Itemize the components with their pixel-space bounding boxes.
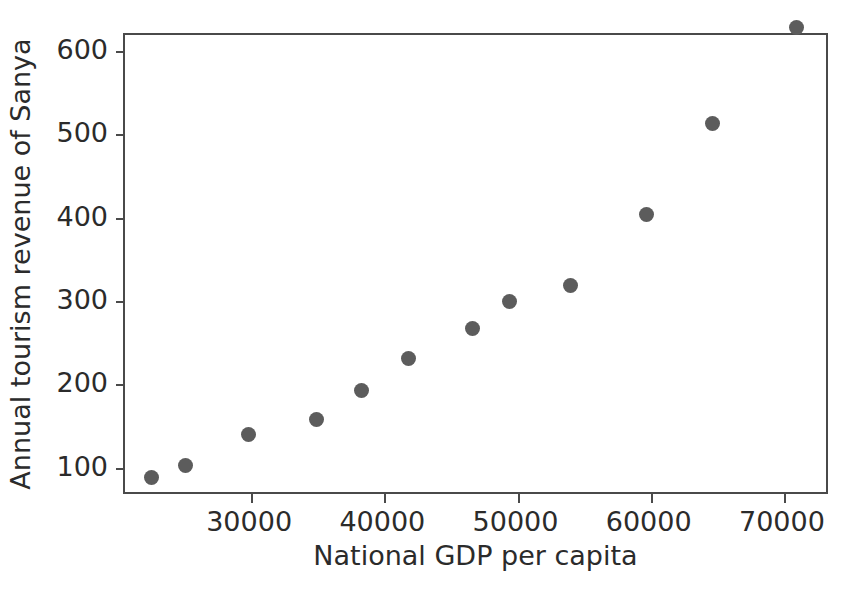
data-point (639, 207, 654, 222)
x-axis-tick-label: 70000 (739, 506, 825, 537)
y-axis-tick (116, 468, 125, 470)
data-point (354, 383, 369, 398)
data-point (563, 278, 578, 293)
x-axis-tick-label: 50000 (473, 506, 559, 537)
y-axis-tick (116, 218, 125, 220)
x-axis-tick-label: 60000 (606, 506, 692, 537)
data-point (178, 458, 193, 473)
x-axis-tick (784, 494, 786, 503)
x-axis-tick-label: 30000 (206, 506, 292, 537)
data-point (705, 116, 720, 131)
y-axis-tick-label: 600 (56, 33, 108, 64)
y-axis-tick-label: 100 (56, 450, 108, 481)
y-axis-tick (116, 51, 125, 53)
data-point (241, 427, 256, 442)
x-axis-tick (384, 494, 386, 503)
data-point (309, 412, 324, 427)
y-axis-tick (116, 384, 125, 386)
scatter-chart-figure: Annual tourism revenue of Sanya 10020030… (0, 0, 856, 593)
x-axis-tick-label: 40000 (339, 506, 425, 537)
data-point (502, 294, 517, 309)
y-axis-tick-label: 400 (56, 200, 108, 231)
y-axis-tick (116, 134, 125, 136)
data-point (465, 321, 480, 336)
y-axis-tick-labels: 100200300400500600 (0, 33, 108, 494)
y-axis-tick (116, 301, 125, 303)
plot-frame (123, 33, 828, 494)
x-axis-tick (518, 494, 520, 503)
data-point (789, 20, 804, 35)
x-axis-tick (251, 494, 253, 503)
x-axis-label: National GDP per capita (123, 540, 828, 571)
x-axis-tick-labels: 3000040000500006000070000 (123, 506, 828, 542)
y-axis-tick-label: 500 (56, 117, 108, 148)
x-axis-tick (651, 494, 653, 503)
data-point (144, 470, 159, 485)
y-axis-tick-label: 200 (56, 367, 108, 398)
y-axis-tick-label: 300 (56, 283, 108, 314)
plot-area (125, 35, 826, 492)
data-point (401, 351, 416, 366)
